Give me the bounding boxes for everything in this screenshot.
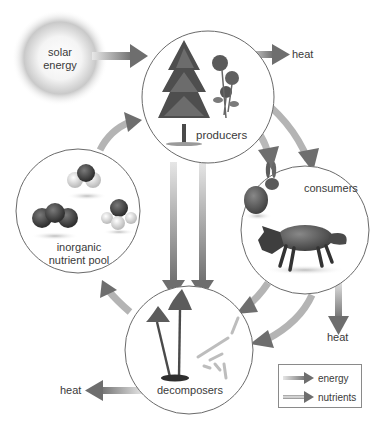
solar-label-line1: solar <box>38 46 82 59</box>
heat-label-consumers: heat <box>327 331 348 344</box>
solar-energy-label: solar energy <box>38 46 82 72</box>
energy-arrow-icon <box>283 372 315 384</box>
producers-label: producers <box>196 129 247 142</box>
arrow-decomposers-to-inorganic <box>100 280 130 312</box>
arrow-producers-to-decomposers <box>162 162 214 298</box>
legend-item-energy: energy <box>283 370 349 386</box>
inorganic-label-line2: nutrient pool <box>44 254 114 267</box>
legend: energy nutrients <box>278 364 362 408</box>
solar-label-line2: energy <box>38 59 82 72</box>
heat-label-decomposers: heat <box>60 384 81 397</box>
producers-node <box>142 31 274 163</box>
legend-item-nutrients: nutrients <box>283 389 356 405</box>
inorganic-nutrient-pool-label: inorganic nutrient pool <box>44 241 114 267</box>
heat-label-producers: heat <box>292 48 313 61</box>
nutrients-arrow-icon <box>283 391 315 403</box>
arrow-inorganic-to-producers <box>100 112 142 150</box>
legend-label-energy: energy <box>318 373 349 384</box>
consumers-label: consumers <box>304 182 358 195</box>
decomposers-label: decomposers <box>157 384 223 397</box>
legend-label-nutrients: nutrients <box>318 392 356 403</box>
inorganic-label-line1: inorganic <box>44 241 114 254</box>
